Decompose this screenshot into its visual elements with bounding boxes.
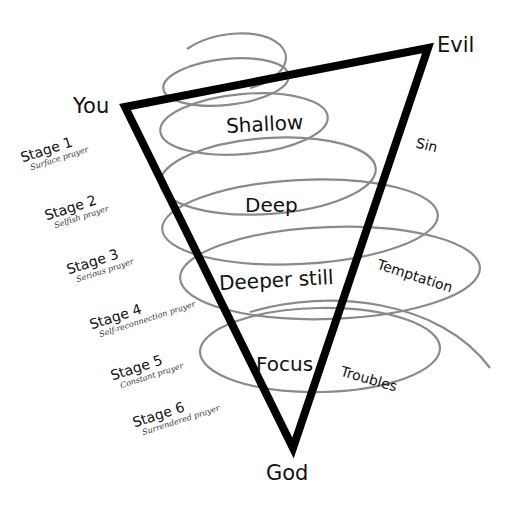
vertex-evil-label: Evil bbox=[437, 35, 474, 56]
vertex-god-label: God bbox=[266, 463, 308, 484]
level-shallow-label: Shallow bbox=[226, 112, 304, 136]
level-deeper-still-label: Deeper still bbox=[219, 267, 334, 293]
level-deep-label: Deep bbox=[245, 195, 298, 215]
vertex-you-label: You bbox=[73, 96, 109, 117]
diagram-canvas bbox=[0, 0, 512, 510]
level-focus-label: Focus bbox=[256, 354, 313, 374]
